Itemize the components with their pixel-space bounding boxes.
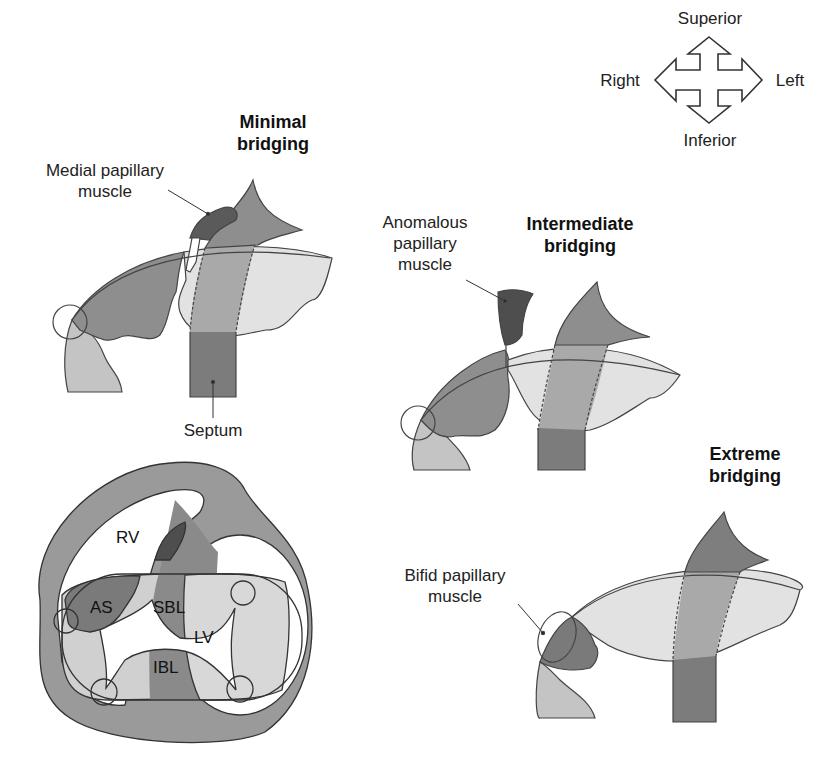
sbl-label: SBL	[153, 598, 185, 618]
orientation-inferior-label: Inferior	[668, 130, 752, 151]
orientation-superior-label: Superior	[668, 8, 752, 29]
orientation-left-label: Left	[768, 70, 812, 91]
rv-label: RV	[116, 528, 139, 548]
extreme-bridging-title: Extreme bridging	[690, 443, 800, 487]
anomalous-papillary-muscle-label: Anomalous papillary muscle	[370, 212, 480, 275]
septum-label: Septum	[170, 420, 256, 441]
intermediate-bridging-title: Intermediate bridging	[505, 213, 655, 257]
minimal-bridging-figure	[53, 180, 332, 418]
orientation-compass-icon	[655, 37, 762, 123]
lv-label: LV	[194, 628, 214, 648]
intermediate-bridging-figure	[401, 280, 680, 470]
as-label: AS	[90, 598, 113, 618]
orientation-right-label: Right	[592, 70, 648, 91]
ibl-label: IBL	[153, 658, 179, 678]
bifid-papillary-muscle-label: Bifid papillary muscle	[385, 565, 525, 607]
extreme-bridging-figure	[518, 512, 803, 722]
diagram-canvas	[0, 0, 830, 772]
minimal-bridging-title: Minimal bridging	[218, 111, 328, 155]
medial-papillary-muscle-label: Medial papillary muscle	[30, 160, 180, 202]
